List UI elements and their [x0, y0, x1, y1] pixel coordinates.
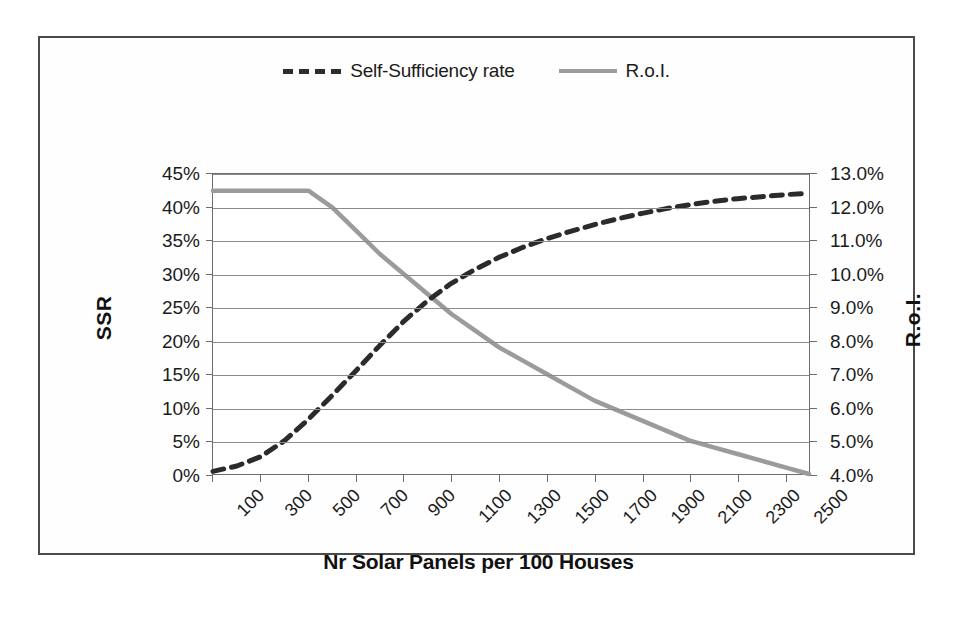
gridline	[213, 442, 809, 443]
y-axis-right-tick-label: 9.0%	[830, 298, 873, 317]
y-axis-right-tick-label: 13.0%	[830, 164, 884, 183]
legend-label-roi: R.o.I.	[626, 60, 670, 82]
y-axis-right-tick-label: 10.0%	[830, 264, 884, 283]
x-axis-tick-label: 2300	[762, 485, 805, 528]
x-axis-tick-label: 700	[376, 485, 412, 521]
series-line-self-sufficiency-rate	[213, 193, 809, 471]
x-axis-tickmark	[690, 475, 691, 482]
y-axis-left-title: SSR	[92, 296, 116, 341]
x-axis-tickmark	[308, 475, 309, 482]
x-axis-tickmark	[499, 475, 500, 482]
legend-label-self-sufficiency-rate: Self-Sufficiency rate	[350, 60, 514, 82]
legend-item-self-sufficiency-rate[interactable]: Self-Sufficiency rate	[283, 60, 514, 82]
gridline	[213, 208, 809, 209]
x-axis-tickmark	[451, 475, 452, 482]
y-axis-right-tickmark	[810, 307, 817, 308]
gridline	[213, 308, 809, 309]
x-axis-tickmark	[260, 475, 261, 482]
chart-legend: Self-Sufficiency rate R.o.I.	[40, 60, 913, 82]
x-axis-tick-label: 1900	[666, 485, 709, 528]
y-axis-right-tick-label: 6.0%	[830, 398, 873, 417]
y-axis-right-tick-label: 4.0%	[830, 466, 873, 485]
x-axis-ticks: 1003005007009001100130015001700190021002…	[212, 475, 810, 555]
y-axis-right-tick-label: 11.0%	[830, 231, 882, 250]
series-canvas	[213, 174, 809, 474]
y-axis-right-tickmarks	[810, 173, 818, 475]
y-axis-left-ticks: 0%5%10%15%20%25%30%35%40%45%	[136, 173, 200, 475]
y-axis-right-tickmark	[810, 374, 817, 375]
x-axis-title: Nr Solar Panels per 100 Houses	[40, 550, 917, 574]
solid-line-icon	[559, 69, 617, 73]
x-axis-tick-label: 500	[328, 485, 364, 521]
x-axis-tickmark	[403, 475, 404, 482]
y-axis-right-tickmark	[810, 441, 817, 442]
gridline	[213, 241, 809, 242]
y-axis-right-tick-label: 8.0%	[830, 331, 873, 350]
x-axis-tick-label: 2100	[714, 485, 757, 528]
y-axis-right-ticks: 4.0%5.0%6.0%7.0%8.0%9.0%10.0%11.0%12.0%1…	[830, 173, 910, 475]
figure-frame: Self-Sufficiency rate R.o.I. SSR R.o.I. …	[38, 36, 915, 555]
x-axis-tickmark	[595, 475, 596, 482]
y-axis-right-tick-label: 12.0%	[830, 197, 884, 216]
y-axis-left-tick-label: 40%	[162, 197, 200, 216]
x-axis-tickmark	[547, 475, 548, 482]
x-axis-tick-label: 900	[424, 485, 460, 521]
y-axis-left-tick-label: 25%	[162, 298, 200, 317]
y-axis-right-tickmark	[810, 240, 817, 241]
plot-area-wrapper	[212, 173, 810, 475]
y-axis-right-tick-label: 7.0%	[830, 365, 873, 384]
y-axis-right-tickmark	[810, 274, 817, 275]
x-axis-tick-label: 1700	[618, 485, 661, 528]
gridline	[213, 174, 809, 175]
gridline	[213, 375, 809, 376]
y-axis-right-tickmark	[810, 341, 817, 342]
y-axis-right-tickmark	[810, 173, 817, 174]
gridline	[213, 275, 809, 276]
y-axis-left-tick-label: 35%	[162, 231, 200, 250]
x-axis-tickmark	[212, 475, 213, 482]
y-axis-left-tick-label: 5%	[173, 432, 200, 451]
y-axis-left-tick-label: 45%	[162, 164, 200, 183]
legend-item-roi[interactable]: R.o.I.	[559, 60, 670, 82]
x-axis-tick-label: 1300	[523, 485, 566, 528]
y-axis-right-tickmark	[810, 207, 817, 208]
y-axis-left-tick-label: 30%	[162, 264, 200, 283]
y-axis-left-tick-label: 0%	[173, 466, 200, 485]
x-axis-tick-label: 100	[233, 485, 269, 521]
x-axis-tickmark	[356, 475, 357, 482]
y-axis-right-tickmark	[810, 408, 817, 409]
x-axis-tick-label: 2500	[810, 485, 853, 528]
plot-area	[212, 173, 810, 475]
y-axis-left-tick-label: 10%	[162, 398, 200, 417]
x-axis-tick-label: 1500	[571, 485, 614, 528]
x-axis-tickmark	[738, 475, 739, 482]
x-axis-tickmark	[786, 475, 787, 482]
gridline	[213, 342, 809, 343]
y-axis-right-tick-label: 5.0%	[830, 432, 873, 451]
y-axis-left-tick-label: 15%	[162, 365, 200, 384]
gridline	[213, 409, 809, 410]
x-axis-tickmark	[643, 475, 644, 482]
y-axis-right-tickmark	[810, 475, 817, 476]
x-axis-tick-label: 1100	[475, 485, 517, 527]
y-axis-left-tick-label: 20%	[162, 331, 200, 350]
x-axis-tick-label: 300	[281, 485, 317, 521]
dashed-line-icon	[283, 69, 341, 74]
series-line-roi	[213, 191, 809, 474]
